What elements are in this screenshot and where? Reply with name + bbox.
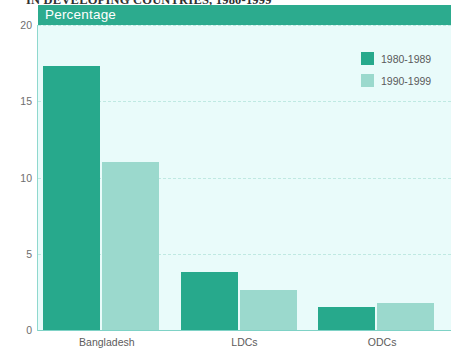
x-tick-label: ODCs <box>313 336 451 348</box>
x-axis-line <box>38 330 451 331</box>
legend-swatch-icon <box>361 52 374 65</box>
bar-odcs-1980-1989 <box>318 307 375 330</box>
legend-item: 1990-1999 <box>361 74 431 87</box>
y-tick-label: 5 <box>2 248 32 260</box>
y-tick-label: 20 <box>2 19 32 31</box>
chart-legend: 1980-19891990-1999 <box>361 52 431 96</box>
bar-ldcs-1980-1989 <box>181 272 238 330</box>
x-tick-label: LDCs <box>176 336 314 348</box>
y-tick-label: 0 <box>2 324 32 336</box>
gridline <box>38 101 451 102</box>
bar-odcs-1990-1999 <box>377 303 434 330</box>
bar-ldcs-1990-1999 <box>240 290 297 330</box>
y-tick-label: 10 <box>2 172 32 184</box>
legend-item: 1980-1989 <box>361 52 431 65</box>
x-tick-label: Bangladesh <box>38 336 176 348</box>
legend-swatch-icon <box>361 74 374 87</box>
y-tick-label: 15 <box>2 95 32 107</box>
gridline <box>38 25 451 26</box>
percentage-header-band: Percentage <box>38 5 451 25</box>
legend-label: 1980-1989 <box>381 53 431 65</box>
percentage-label: Percentage <box>45 7 116 22</box>
bar-bangladesh-1980-1989 <box>43 66 100 330</box>
legend-label: 1990-1999 <box>381 75 431 87</box>
gridline <box>38 178 451 179</box>
bar-bangladesh-1990-1999 <box>102 162 159 330</box>
gridline <box>38 254 451 255</box>
